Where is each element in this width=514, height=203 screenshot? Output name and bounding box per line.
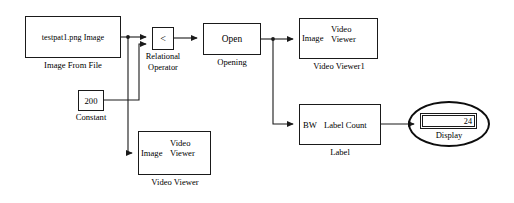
port-label-label-count: Label Count	[324, 120, 367, 130]
block-opening[interactable]: Open	[203, 23, 261, 55]
block-image-from-file-body: testpat1.png Image	[26, 33, 120, 42]
block-caption-constant: Constant	[68, 112, 114, 122]
block-caption-opening: Opening	[199, 57, 265, 67]
block-video-viewer1-title: Video Viewer	[331, 24, 356, 44]
block-caption-relational-operator: Relational Operator	[134, 52, 192, 73]
block-opening-body: Open	[204, 34, 260, 44]
display-highlight-ellipse-icon	[408, 101, 490, 147]
port-label-video-viewer1-image: Image	[302, 33, 323, 43]
block-video-viewer-title: Video Viewer	[170, 138, 195, 158]
block-video-viewer-title-line1: Video	[170, 138, 195, 148]
port-label-label-bw: BW	[303, 120, 317, 130]
port-label-video-viewer-image: Image	[141, 148, 162, 158]
block-constant-body: 200	[79, 96, 103, 106]
block-caption-label: Label	[303, 147, 377, 157]
block-diagram-canvas: testpat1.png Image Image From File < Rel…	[0, 0, 514, 203]
block-relational-operator[interactable]: <	[152, 27, 174, 50]
block-video-viewer-title-line2: Viewer	[170, 148, 195, 158]
block-caption-video-viewer1: Video Viewer1	[296, 61, 382, 71]
block-caption-image-from-file: Image From File	[10, 60, 136, 70]
block-image-from-file[interactable]: testpat1.png Image	[25, 16, 121, 58]
block-caption-relational-operator-line1: Relational	[134, 52, 192, 63]
block-constant[interactable]: 200	[78, 90, 104, 111]
block-caption-relational-operator-line2: Operator	[134, 63, 192, 74]
block-relational-operator-body: <	[153, 33, 173, 44]
block-video-viewer1-title-line1: Video	[331, 24, 356, 34]
block-caption-video-viewer: Video Viewer	[134, 177, 216, 187]
block-video-viewer1-title-line2: Viewer	[331, 34, 356, 44]
